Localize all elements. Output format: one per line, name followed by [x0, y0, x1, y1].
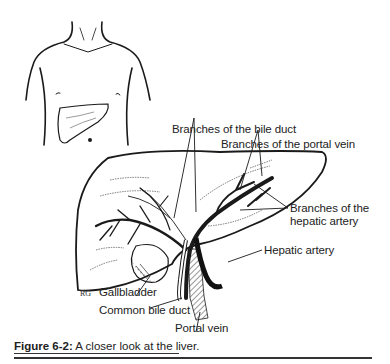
label-portal-vein-branches: Branches of the portal vein — [221, 138, 355, 150]
caption-underline — [14, 353, 179, 354]
figure-caption: Figure 6-2: A closer look at the liver. — [14, 340, 199, 352]
small-liver — [58, 104, 108, 143]
vessel-branches — [96, 174, 272, 298]
label-gallbladder: Gallbladder — [99, 286, 157, 298]
leader-lines — [136, 118, 288, 332]
liver-illustration: RG — [0, 0, 390, 364]
caption-rule — [14, 357, 372, 359]
label-portal-vein: Portal vein — [175, 322, 228, 334]
label-hepatic-artery-branches-2: hepatic artery — [290, 215, 358, 227]
torso-outline — [26, 22, 150, 145]
artist-signature: RG — [80, 289, 91, 298]
figure-caption-text: A closer look at the liver. — [73, 340, 200, 352]
label-hepatic-artery: Hepatic artery — [264, 244, 334, 256]
label-bile-duct-branches: Branches of the bile duct — [172, 123, 296, 135]
figure-number: Figure 6-2: — [14, 340, 73, 352]
label-common-bile-duct: Common bile duct — [99, 304, 190, 316]
label-hepatic-artery-branches-1: Branches of the — [290, 202, 369, 214]
